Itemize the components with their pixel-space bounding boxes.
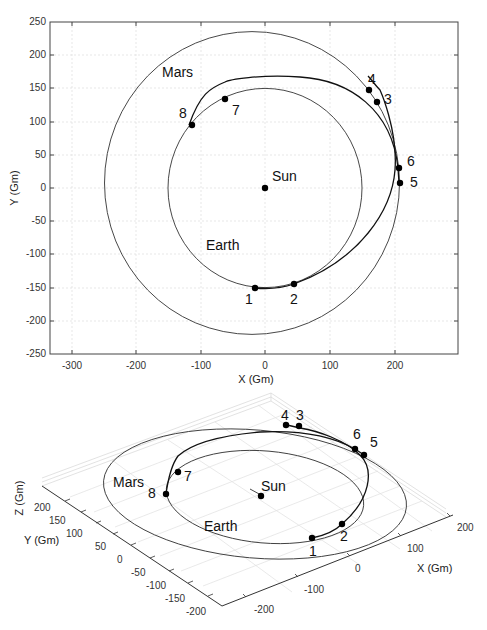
point-label-1-3d: 1 [309,543,317,559]
top-xtick: 0 [262,360,268,371]
earth-label: Earth [206,237,239,253]
top-xtick: 100 [322,360,339,371]
point-label-6-3d: 6 [353,426,361,442]
point-3-3d [296,423,302,429]
bottom-ytick: -150 [165,593,185,604]
point-8 [189,122,195,128]
point-label-7: 7 [232,102,240,118]
point-4 [366,87,372,93]
top-xtick: -300 [62,360,82,371]
sun-label: Sun [272,168,297,184]
top-plot: -300 -200 -100 0 100 200 250 200 150 100… [8,16,458,385]
top-ytick: 250 [29,16,46,27]
bottom-ytick: 150 [49,515,66,526]
bottom-ytick: -100 [146,580,166,591]
point-label-4-3d: 4 [281,407,289,423]
bottom-ytick: -50 [131,567,146,578]
point-label-5: 5 [410,174,418,190]
bottom-xlabel: X (Gm) [417,562,452,574]
top-xtick: -100 [191,360,211,371]
figure: -300 -200 -100 0 100 200 250 200 150 100… [0,0,487,630]
bottom-ytick: 0 [117,554,123,565]
top-ytick: 150 [29,82,46,93]
point-7-3d [175,469,181,475]
bottom-x-ticks [243,513,450,597]
point-8-3d [163,491,169,497]
bottom-back-grid [42,393,446,517]
bottom-ylabel: Y (Gm) [24,534,59,546]
point-label-5-3d: 5 [370,434,378,450]
bottom-ytick: 50 [95,541,107,552]
earth-label-3d: Earth [204,518,237,534]
top-grid [50,22,458,354]
point-3 [374,99,380,105]
bottom-xtick: -100 [304,584,324,595]
top-ytick: 0 [40,182,46,193]
bottom-xtick: 100 [407,543,424,554]
top-ytick: 200 [29,49,46,60]
top-ytick: -250 [26,348,46,359]
point-label-8: 8 [179,105,187,121]
point-label-3-3d: 3 [296,407,304,423]
sun-marker [262,185,268,191]
top-ytick: -50 [32,215,47,226]
point-label-2: 2 [290,291,298,307]
point-6 [396,165,402,171]
top-xtick: 200 [387,360,404,371]
bottom-xtick: -200 [254,604,274,615]
top-xlabel: X (Gm) [238,373,273,385]
point-5 [397,180,403,186]
point-label-8-3d: 8 [148,485,156,501]
point-5-3d [361,452,367,458]
mars-label: Mars [162,64,193,80]
point-2 [291,281,297,287]
top-ytick: -100 [26,248,46,259]
top-ytick: -200 [26,315,46,326]
point-label-6: 6 [407,153,415,169]
mars-label-3d: Mars [113,474,144,490]
top-ylabel: Y (Gm) [8,170,20,205]
point-7 [222,96,228,102]
point-2-3d [339,521,345,527]
bottom-zlabel: Z (Gm) [13,481,25,516]
bottom-plot: 200 150 100 50 0 -50 -100 -150 -200 200 … [13,393,474,617]
bottom-ytick: -200 [186,606,206,617]
bottom-ytick: 200 [34,502,51,513]
top-points [189,87,403,291]
point-label-4: 4 [368,71,376,87]
point-label-2-3d: 2 [340,528,348,544]
point-label-3: 3 [384,91,392,107]
bottom-xtick: 200 [457,522,474,533]
bottom-xtick: 0 [355,563,361,574]
point-1-3d [309,535,315,541]
point-label-7-3d: 7 [184,468,192,484]
point-6-3d [352,446,358,452]
top-xtick: -200 [126,360,146,371]
top-ytick: 50 [35,149,47,160]
sun-label-3d: Sun [261,478,286,494]
bottom-ytick: 100 [66,528,83,539]
point-label-1: 1 [245,291,253,307]
top-ytick: 100 [29,116,46,127]
top-ytick: -150 [26,282,46,293]
